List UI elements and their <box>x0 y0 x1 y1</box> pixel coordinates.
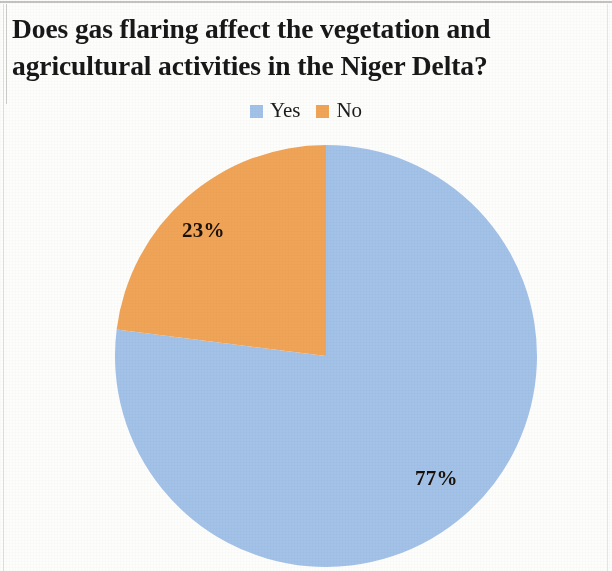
legend-item-yes: Yes <box>250 100 301 121</box>
chart-title-line-2: agricultural activities in the Niger Del… <box>12 47 604 84</box>
chart-title-line-1: Does gas flaring affect the vegetation a… <box>12 10 604 47</box>
pie-chart <box>115 145 537 567</box>
chart-legend: Yes No <box>0 100 612 121</box>
pie-slice-label-no: 23% <box>182 218 225 243</box>
scan-artifact-line-right <box>607 4 608 571</box>
scan-artifact-line-top <box>0 1 612 3</box>
legend-swatch-no-icon <box>316 105 329 118</box>
pie-svg <box>115 145 537 567</box>
chart-figure: Does gas flaring affect the vegetation a… <box>0 0 612 571</box>
legend-item-no: No <box>316 100 362 121</box>
legend-label-no: No <box>336 100 362 121</box>
pie-slice-label-yes: 77% <box>415 466 458 491</box>
pie-slice-no <box>117 145 326 356</box>
scan-artifact-line-left-inner <box>6 4 7 104</box>
chart-title: Does gas flaring affect the vegetation a… <box>12 10 604 84</box>
scan-artifact-line-left-outer <box>3 4 4 571</box>
legend-swatch-yes-icon <box>250 105 263 118</box>
legend-label-yes: Yes <box>270 100 301 121</box>
